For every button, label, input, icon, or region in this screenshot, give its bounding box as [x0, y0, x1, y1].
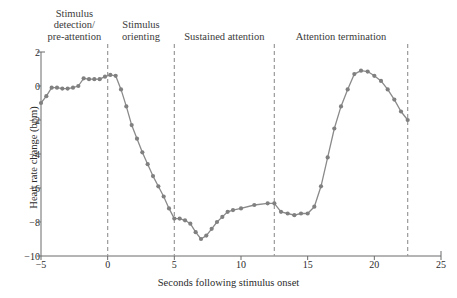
- data-point: [210, 227, 214, 231]
- data-point: [199, 237, 203, 241]
- data-point: [76, 84, 80, 88]
- data-point: [231, 208, 235, 212]
- data-point: [146, 162, 150, 166]
- data-point: [151, 174, 155, 178]
- data-point: [162, 194, 166, 198]
- data-point: [312, 205, 316, 209]
- data-point: [60, 86, 64, 90]
- data-point: [266, 201, 270, 205]
- data-point: [114, 74, 118, 78]
- data-point: [108, 73, 112, 77]
- data-point: [92, 77, 96, 81]
- data-point: [392, 98, 396, 102]
- data-point: [220, 215, 224, 219]
- data-point: [124, 104, 128, 108]
- data-point: [140, 150, 144, 154]
- data-point: [279, 210, 283, 214]
- data-point: [326, 155, 330, 159]
- data-point: [55, 86, 59, 90]
- data-point: [299, 211, 303, 215]
- data-point: [66, 86, 70, 90]
- data-point: [194, 230, 198, 234]
- data-point: [346, 87, 350, 91]
- heart-rate-attention-chart: Stimulus detection/ pre-attentionStimulu…: [0, 0, 457, 298]
- data-point: [359, 69, 363, 73]
- data-point: [178, 217, 182, 221]
- data-point: [286, 211, 290, 215]
- data-point: [352, 72, 356, 76]
- data-point: [98, 77, 102, 81]
- data-point: [379, 79, 383, 83]
- data-point: [130, 123, 134, 127]
- data-point: [44, 94, 48, 98]
- data-point: [188, 222, 192, 226]
- data-point: [319, 184, 323, 188]
- data-point: [172, 217, 176, 221]
- data-point: [119, 87, 123, 91]
- data-point: [135, 137, 139, 141]
- data-point: [204, 234, 208, 238]
- data-point: [39, 101, 43, 105]
- data-point: [103, 75, 107, 79]
- data-point: [406, 118, 410, 122]
- data-point: [226, 210, 230, 214]
- data-point: [339, 104, 343, 108]
- data-point: [50, 86, 54, 90]
- data-point: [87, 77, 91, 81]
- data-point: [239, 206, 243, 210]
- data-point: [183, 218, 187, 222]
- data-point: [82, 76, 86, 80]
- data-point: [215, 220, 219, 224]
- data-point: [156, 184, 160, 188]
- data-point: [332, 126, 336, 130]
- data-point: [366, 69, 370, 73]
- plot-area: [0, 0, 457, 298]
- data-point: [272, 201, 276, 205]
- data-point: [71, 86, 75, 90]
- data-point: [399, 109, 403, 113]
- data-point: [306, 211, 310, 215]
- data-point: [252, 203, 256, 207]
- data-point: [167, 206, 171, 210]
- data-point: [386, 87, 390, 91]
- data-point: [292, 213, 296, 217]
- data-point: [372, 74, 376, 78]
